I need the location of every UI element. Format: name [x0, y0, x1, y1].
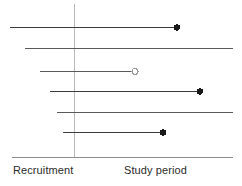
study-timeline-chart: Recruitment Study period — [0, 0, 242, 186]
timeline-row — [63, 129, 166, 135]
timeline-row — [40, 69, 138, 75]
timeline-row — [50, 88, 203, 94]
event-filled-dot-icon — [197, 88, 203, 94]
event-filled-dot-icon — [160, 129, 166, 135]
timeline-plot-area — [0, 0, 242, 186]
axis-label-study-period: Study period — [124, 164, 187, 177]
event-filled-dot-icon — [174, 24, 180, 30]
axis-label-recruitment: Recruitment — [13, 164, 73, 177]
timeline-rows-group — [10, 24, 233, 135]
timeline-row — [10, 24, 180, 30]
withdrawal-open-dot-icon — [132, 69, 138, 75]
